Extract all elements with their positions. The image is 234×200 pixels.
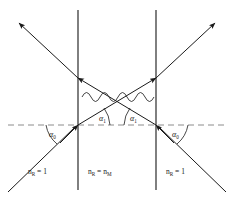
medium-label-middle: nR = nM: [88, 167, 112, 177]
medium-label-left: nR = 1: [28, 167, 47, 177]
medium-left-eq: = 1: [35, 167, 47, 176]
alpha1-right-sub: 1: [134, 118, 137, 124]
angle-label-alpha0-right: α0: [172, 130, 179, 140]
incoming-ray-left-arrow: [60, 125, 78, 143]
angle-label-alpha1-right: α1: [130, 114, 137, 124]
medium-label-right: nR = 1: [166, 167, 185, 177]
angle-label-alpha0-left: α0: [49, 130, 56, 140]
alpha0-left-sub: 0: [53, 134, 56, 140]
optics-ray-diagram: α0 α1 α1 α0 nR = 1 nR = nM nR = 1: [0, 0, 234, 200]
medium-middle-sub2: M: [107, 171, 112, 177]
angle-label-alpha1-left: α1: [99, 114, 106, 124]
medium-middle-eq: = n: [95, 167, 107, 176]
incoming-ray-left: [8, 128, 74, 192]
alpha0-right-sub: 0: [176, 134, 179, 140]
outgoing-ray-upper-right: [156, 23, 215, 78]
wave-left: [82, 93, 118, 102]
alpha1-left-sub: 1: [103, 118, 106, 124]
incoming-ray-right: [160, 128, 226, 192]
wave-right: [118, 93, 154, 102]
outgoing-ray-upper-left: [19, 23, 78, 78]
medium-right-eq: = 1: [173, 167, 185, 176]
diagram-canvas: α0 α1 α1 α0 nR = 1 nR = nM nR = 1: [0, 0, 234, 200]
